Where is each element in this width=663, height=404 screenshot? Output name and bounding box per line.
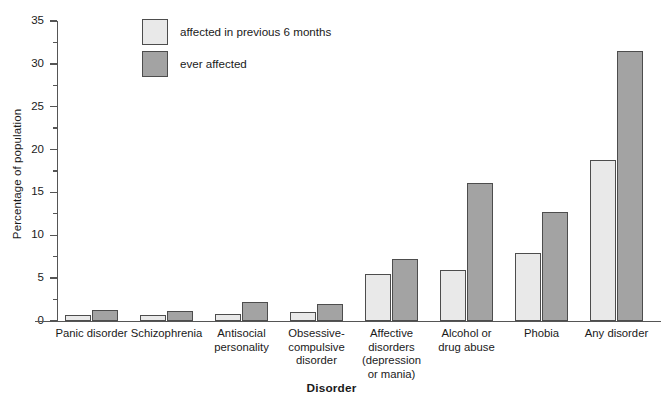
bar-group [515, 21, 568, 321]
bar[interactable] [392, 259, 418, 321]
bar[interactable] [542, 212, 568, 321]
x-axis-line [35, 321, 661, 322]
bar[interactable] [242, 302, 268, 321]
bar-group [590, 21, 643, 321]
x-axis-tick-label: Obsessive- compulsive disorder [279, 327, 354, 368]
y-axis-tick-major [50, 149, 57, 150]
bar[interactable] [140, 315, 166, 321]
x-axis-tick-label: Antisocial personality [204, 327, 279, 354]
x-axis-tick-label: Affective disorders (depression or mania… [354, 327, 429, 381]
bar[interactable] [317, 304, 343, 321]
bar[interactable] [167, 311, 193, 321]
bar[interactable] [365, 274, 391, 321]
y-axis-tick-major [50, 192, 57, 193]
legend-swatch-dark [142, 51, 168, 77]
legend-label: ever affected [180, 57, 247, 70]
bar[interactable] [515, 253, 541, 321]
y-axis-tick-label: 35 [14, 15, 44, 27]
legend-label: affected in previous 6 months [180, 25, 331, 38]
bar[interactable] [467, 183, 493, 321]
y-axis-title: Percentage of population [11, 64, 23, 284]
legend-swatch-light [142, 19, 168, 45]
bar[interactable] [617, 51, 643, 321]
bar-group [65, 21, 118, 321]
x-axis-tick-label: Any disorder [579, 327, 654, 341]
y-axis-tick-label: 20 [14, 144, 44, 156]
bar-group [365, 21, 418, 321]
y-axis-tick-label: 5 [14, 272, 44, 284]
y-axis-tick-major [50, 20, 57, 21]
x-axis-tick-label: Panic disorder [54, 327, 129, 341]
bar[interactable] [290, 312, 316, 321]
bar[interactable] [65, 315, 91, 321]
y-axis-tick-major [50, 277, 57, 278]
y-axis-tick-major [50, 235, 57, 236]
bar-group [290, 21, 343, 321]
y-axis-tick-label: 15 [14, 186, 44, 198]
bar[interactable] [215, 314, 241, 321]
x-axis-tick-label: Alcohol or drug abuse [429, 327, 504, 354]
y-axis-tick-major [50, 63, 57, 64]
y-axis-tick-label: 30 [14, 58, 44, 70]
bar[interactable] [92, 310, 118, 321]
y-axis-tick-label: 10 [14, 229, 44, 241]
bar[interactable] [590, 160, 616, 321]
bar-group [440, 21, 493, 321]
x-axis-title: Disorder [0, 381, 663, 395]
x-axis-tick-label: Schizophrenia [129, 327, 204, 341]
bar[interactable] [440, 270, 466, 321]
y-axis-tick-major [50, 106, 57, 107]
x-axis-tick-label: Phobia [504, 327, 579, 341]
y-axis-tick-label: 25 [14, 101, 44, 113]
bar-chart: Percentage of population 05101520253035 … [0, 0, 663, 404]
